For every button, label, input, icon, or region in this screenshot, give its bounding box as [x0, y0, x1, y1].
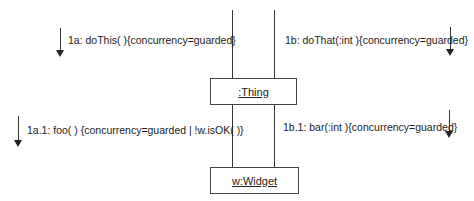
object-widget-label: w:Widget [232, 175, 277, 187]
message-1a: 1a: doThis( ){concurrency=guarded} [68, 34, 236, 46]
arrow-down-icon [14, 116, 22, 147]
link-thing-widget-right [274, 104, 275, 167]
object-thing[interactable]: :Thing [210, 78, 297, 105]
link-top-right [274, 10, 275, 78]
object-thing-label: :Thing [238, 86, 269, 98]
message-1a-1: 1a.1: foo( ) {concurrency=guarded | !w.i… [27, 124, 244, 136]
message-1b-1: 1b.1: bar(:int ){concurrency=guarded} [283, 121, 457, 133]
arrow-down-icon [56, 28, 64, 57]
message-1b: 1b: doThat(:int ){concurrency=guarded} [285, 34, 468, 46]
object-widget[interactable]: w:Widget [210, 167, 299, 194]
